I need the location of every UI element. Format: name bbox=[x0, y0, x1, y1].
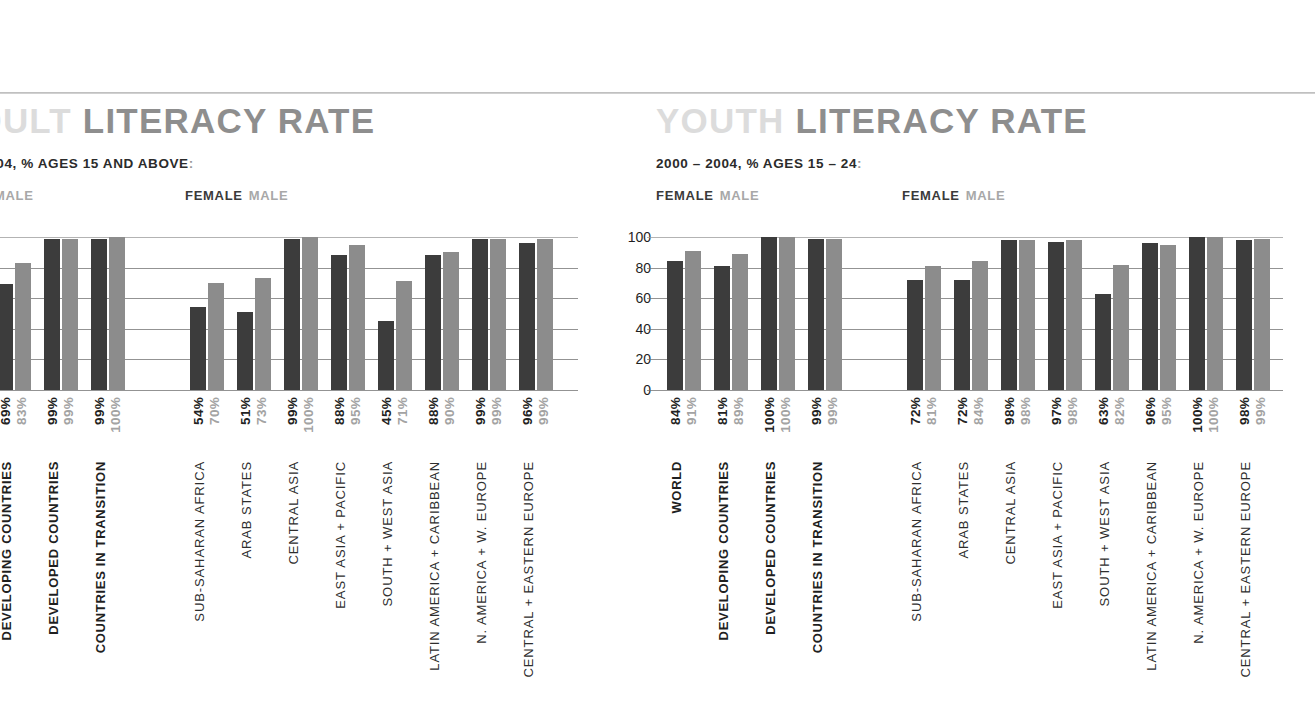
bar-group bbox=[1236, 237, 1270, 390]
category-label: LATIN AMERICA + CARIBBEAN bbox=[1144, 461, 1159, 671]
legend-female-label-youth: FEMALE bbox=[656, 188, 714, 203]
value-labels: 99%100% bbox=[284, 397, 324, 457]
bar-male bbox=[972, 261, 988, 390]
value-female: 84% bbox=[668, 397, 683, 425]
plot-area-youth: 020406080100 84%91%WORLD81%89%DEVELOPING… bbox=[655, 237, 1315, 707]
bar-group bbox=[954, 237, 988, 390]
value-labels: 69%83% bbox=[0, 397, 37, 457]
bar-male bbox=[685, 251, 701, 390]
group-label: 100%100%DEVELOPED COUNTRIES bbox=[761, 397, 801, 457]
value-male: 99% bbox=[536, 397, 551, 425]
bar-group bbox=[1095, 237, 1129, 390]
title-soft-youth: YOUTH bbox=[656, 101, 785, 140]
value-female: 88% bbox=[332, 397, 347, 425]
category-label: WORLD bbox=[669, 461, 684, 514]
bar-group bbox=[519, 237, 553, 390]
bar-group bbox=[91, 237, 125, 390]
bar-group bbox=[808, 237, 842, 390]
value-male: 100% bbox=[108, 397, 123, 433]
value-labels: 84%91% bbox=[667, 397, 707, 457]
legend-male-label-adult-2: MALE bbox=[249, 188, 289, 203]
value-female: 96% bbox=[520, 397, 535, 425]
category-label: CENTRAL + EASTERN EUROPE bbox=[521, 461, 536, 678]
value-labels: 99%100% bbox=[91, 397, 131, 457]
y-tick-40: 40 bbox=[617, 322, 651, 336]
bar-group bbox=[472, 237, 506, 390]
bar-female bbox=[378, 321, 394, 390]
bar-group bbox=[0, 237, 31, 390]
bar-female bbox=[519, 243, 535, 390]
subtitle-text-youth: 2000 – 2004, % AGES 15 – 24 bbox=[656, 156, 857, 171]
value-labels: 51%73% bbox=[237, 397, 277, 457]
group-label: 96%99%CENTRAL + EASTERN EUROPE bbox=[519, 397, 559, 457]
group-label: 99%99%COUNTRIES IN TRANSITION bbox=[808, 397, 848, 457]
bar-male bbox=[1160, 245, 1176, 390]
group-label: 96%95%LATIN AMERICA + CARIBBEAN bbox=[1142, 397, 1182, 457]
value-male: 95% bbox=[348, 397, 363, 425]
value-labels: 99%99% bbox=[472, 397, 512, 457]
category-label: DEVELOPING COUNTRIES bbox=[716, 461, 731, 640]
bar-male bbox=[826, 239, 842, 390]
bar-female bbox=[1048, 242, 1064, 390]
header-divider bbox=[0, 92, 1315, 94]
legend-group-primary-adult: EMALEMALE bbox=[0, 188, 34, 203]
value-female: 99% bbox=[285, 397, 300, 425]
value-female: 99% bbox=[473, 397, 488, 425]
value-labels: 88%95% bbox=[331, 397, 371, 457]
category-label: CENTRAL + EASTERN EUROPE bbox=[1238, 461, 1253, 678]
group-label: 72%81%SUB-SAHARAN AFRICA bbox=[907, 397, 947, 457]
category-labels-youth: 84%91%WORLD81%89%DEVELOPING COUNTRIES100… bbox=[655, 397, 1315, 697]
value-female: 98% bbox=[1002, 397, 1017, 425]
bar-female bbox=[954, 280, 970, 390]
group-label: 88%90%LATIN AMERICA + CARIBBEAN bbox=[425, 397, 465, 457]
value-male: 83% bbox=[14, 397, 29, 425]
bar-male bbox=[732, 254, 748, 390]
value-labels: 63%82% bbox=[1095, 397, 1135, 457]
bar-female bbox=[1236, 240, 1252, 390]
value-female: 97% bbox=[1049, 397, 1064, 425]
value-female: 98% bbox=[1237, 397, 1252, 425]
bar-female bbox=[667, 261, 683, 390]
category-label: SUB-SAHARAN AFRICA bbox=[909, 461, 924, 622]
legend-group-secondary-adult: FEMALEMALE bbox=[185, 188, 288, 203]
category-label: SUB-SAHARAN AFRICA bbox=[192, 461, 207, 622]
group-label: 99%99%N. AMERICA + W. EUROPE bbox=[472, 397, 512, 457]
category-label: EAST ASIA + PACIFIC bbox=[333, 461, 348, 609]
bar-male bbox=[62, 239, 78, 390]
chart-subtitle-adult: 000 – 2004, % AGES 15 AND ABOVE: bbox=[0, 156, 618, 171]
value-male: 82% bbox=[1112, 397, 1127, 425]
y-tick-80: 80 bbox=[617, 261, 651, 275]
group-label: 51%73%ARAB STATES bbox=[237, 397, 277, 457]
legend-group-secondary-youth: FEMALEMALE bbox=[902, 188, 1005, 203]
value-female: 81% bbox=[715, 397, 730, 425]
page-title-adult: .ADULT LITERACY RATE bbox=[0, 100, 618, 142]
bar-group bbox=[331, 237, 365, 390]
gridline-0 bbox=[0, 390, 578, 391]
value-labels: 98%99% bbox=[1236, 397, 1276, 457]
bar-female bbox=[1095, 294, 1111, 390]
value-female: 100% bbox=[762, 397, 777, 433]
value-male: 100% bbox=[778, 397, 793, 433]
bar-group bbox=[237, 237, 271, 390]
y-tick-0: 0 bbox=[617, 383, 651, 397]
value-labels: 72%81% bbox=[907, 397, 947, 457]
value-female: 69% bbox=[0, 397, 13, 425]
category-label: SOUTH + WEST ASIA bbox=[380, 461, 395, 606]
plot-area-adult: 77%87%WORLD69%83%DEVELOPING COUNTRIES99%… bbox=[0, 237, 618, 707]
value-female: 72% bbox=[955, 397, 970, 425]
bar-female bbox=[472, 239, 488, 390]
group-label: 100%100%N. AMERICA + W. EUROPE bbox=[1189, 397, 1229, 457]
bar-male bbox=[1207, 237, 1223, 390]
chart-panel-adult: .ADULT LITERACY RATE 000 – 2004, % AGES … bbox=[0, 100, 618, 710]
bar-male bbox=[1254, 239, 1270, 390]
bar-female bbox=[808, 239, 824, 390]
bar-group bbox=[1001, 237, 1035, 390]
bars-adult bbox=[0, 237, 618, 390]
legend-female-label-adult-2: FEMALE bbox=[185, 188, 243, 203]
group-label: 88%95%EAST ASIA + PACIFIC bbox=[331, 397, 371, 457]
legend-male-label-youth-2: MALE bbox=[966, 188, 1006, 203]
value-female: 63% bbox=[1096, 397, 1111, 425]
value-female: 99% bbox=[45, 397, 60, 425]
bar-male bbox=[1066, 240, 1082, 390]
bar-group bbox=[1189, 237, 1223, 390]
